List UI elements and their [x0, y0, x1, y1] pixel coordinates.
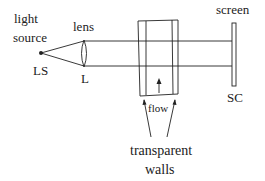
sc-label: SC [227, 90, 243, 105]
wall-pointer-right [167, 100, 175, 137]
light-source-label: light [14, 11, 38, 26]
optical-setup-diagram: light source LS lens L screen SC flow tr… [0, 0, 265, 181]
flow-arrow-head [157, 78, 162, 84]
lens-icon [82, 40, 87, 67]
ray-upper-diverging [41, 41, 84, 53]
wall-pointer-left-head [143, 99, 147, 105]
screen-plate [232, 23, 236, 86]
walls-label: transparent [130, 143, 192, 158]
walls-label: walls [145, 162, 175, 177]
light-source-point [39, 51, 43, 55]
ls-label: LS [33, 63, 48, 78]
light-source-label: source [13, 30, 47, 45]
flow-label: flow [148, 102, 168, 114]
transparent-wall-right [172, 20, 173, 94]
wall-pointer-right-head [173, 99, 177, 105]
l-label: L [81, 71, 89, 86]
screen-label: screen [216, 2, 250, 17]
lens-label: lens [73, 19, 94, 34]
